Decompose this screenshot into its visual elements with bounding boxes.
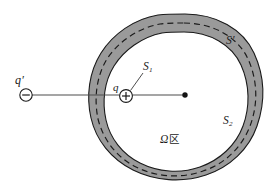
label-s1-text: S [143, 60, 149, 72]
physics-figure: q′ q S1 S′ S2 Ω区 [0, 0, 274, 189]
external-charge-marker [20, 89, 32, 101]
label-internal-charge-text: q [113, 81, 119, 93]
label-outer-surface-s2: S2 [223, 115, 233, 128]
label-external-charge-prime: ′ [21, 73, 24, 87]
label-s1-subscript: 1 [149, 66, 153, 74]
label-region-cjk: 区 [168, 133, 179, 145]
label-internal-charge: q [113, 82, 119, 93]
label-gaussian-surface-s-prime: S′ [226, 35, 234, 47]
center-dot [182, 92, 187, 97]
label-s2-text: S [223, 114, 229, 126]
label-gaussian-surface-s1: S1 [143, 61, 153, 74]
label-s2-subscript: 2 [229, 120, 233, 128]
label-external-charge: q′ [15, 74, 24, 86]
label-region-omega: Ω区 [160, 134, 179, 146]
internal-charge-marker [120, 90, 133, 103]
figure-canvas [0, 0, 274, 189]
label-s-prime-mark: ′ [232, 34, 235, 46]
label-s-prime-text: S [226, 34, 232, 46]
